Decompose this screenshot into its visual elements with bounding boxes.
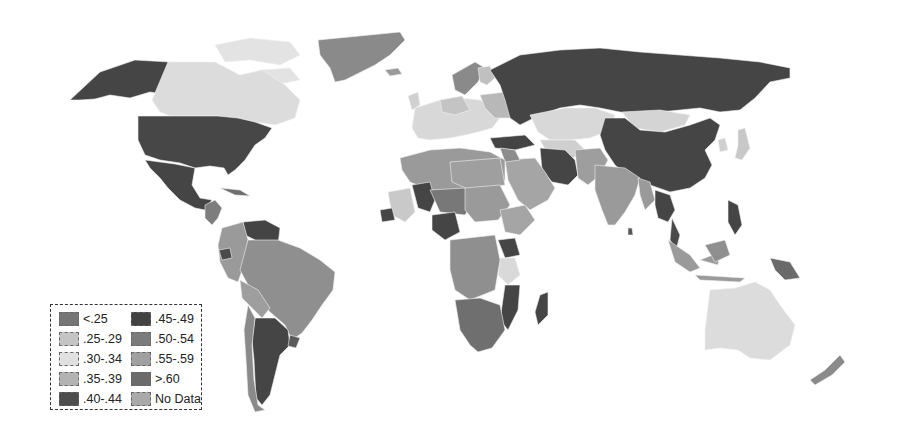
swatch-gt60: [131, 372, 151, 386]
legend-item-gt60: >.60: [131, 371, 203, 386]
region-thailand-vietnam: [655, 190, 675, 222]
region-mali: [412, 182, 435, 212]
legend: <.25 .45-.49 .25-.29 .50-.54 .30-.34 .55…: [50, 304, 202, 410]
swatch-45-49: [131, 312, 151, 326]
region-senegal: [380, 208, 395, 222]
legend-item-50-54: .50-.54: [131, 331, 203, 346]
legend-label: .30-.34: [83, 352, 122, 366]
legend-label: No Data: [155, 392, 201, 406]
legend-label: .25-.29: [83, 332, 122, 346]
region-mexico: [145, 160, 212, 210]
legend-label: >.60: [155, 372, 180, 386]
region-korea: [718, 138, 728, 152]
region-japan: [735, 128, 750, 160]
legend-label: .50-.54: [155, 332, 194, 346]
region-sri-lanka: [628, 228, 633, 235]
swatch-35-39: [59, 372, 79, 386]
region-iceland: [385, 68, 402, 76]
region-png: [770, 258, 800, 280]
region-argentina: [252, 318, 290, 405]
swatch-55-59: [131, 352, 151, 366]
legend-label: .55-.59: [155, 352, 194, 366]
legend-item-lt25: <.25: [59, 311, 131, 326]
region-uruguay: [288, 335, 300, 348]
legend-item-35-39: .35-.39: [59, 371, 131, 386]
region-central-africa: [450, 235, 500, 300]
legend-item-30-34: .30-.34: [59, 351, 131, 366]
region-caribbean: [220, 188, 250, 196]
legend-item-40-44: .40-.44: [59, 391, 131, 406]
region-nigeria: [432, 212, 460, 240]
legend-label: .45-.49: [155, 312, 194, 326]
region-india: [595, 165, 640, 225]
legend-label: .40-.44: [83, 392, 122, 406]
region-australia: [705, 282, 795, 360]
swatch-30-34: [59, 352, 79, 366]
region-tanzania: [498, 258, 520, 285]
legend-item-45-49: .45-.49: [131, 311, 203, 326]
legend-label: <.25: [83, 312, 108, 326]
region-kenya: [498, 238, 520, 258]
region-southern-africa: [455, 298, 505, 352]
region-new-zealand: [810, 355, 845, 385]
legend-item-55-59: .55-.59: [131, 351, 203, 366]
region-central-america: [205, 200, 222, 225]
region-madagascar: [535, 292, 548, 325]
swatch-25-29: [59, 332, 79, 346]
legend-item-no-data: No Data: [131, 391, 203, 406]
swatch-40-44: [59, 392, 79, 406]
legend-item-25-29: .25-.29: [59, 331, 131, 346]
legend-label: .35-.39: [83, 372, 122, 386]
swatch-lt25: [59, 312, 79, 326]
swatch-no-data: [131, 392, 151, 406]
region-turkey: [490, 135, 535, 150]
region-philippines: [728, 200, 742, 235]
swatch-50-54: [131, 332, 151, 346]
